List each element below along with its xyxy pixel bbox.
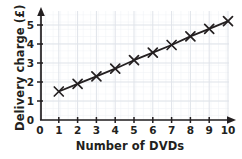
x-axis-title: Number of DVDs bbox=[55, 139, 205, 153]
x-tick-label-4: 4 bbox=[107, 124, 123, 136]
x-tick-label-2: 2 bbox=[70, 124, 86, 136]
x-tick-label-5: 5 bbox=[126, 124, 142, 136]
x-tick-label-8: 8 bbox=[182, 124, 198, 136]
y-tick-label-5: 5 bbox=[20, 19, 34, 31]
y-tick-label-3: 3 bbox=[20, 57, 34, 69]
x-tick-label-1: 1 bbox=[51, 124, 67, 136]
chart-figure: Delivery charge (£) Number of DVDs 0 1 2… bbox=[0, 0, 242, 159]
y-tick-label-1: 1 bbox=[20, 95, 34, 107]
x-tick-label-10: 10 bbox=[220, 124, 236, 136]
x-tick-label-7: 7 bbox=[164, 124, 180, 136]
x-tick-label-0: 0 bbox=[32, 124, 48, 136]
x-tick-label-9: 9 bbox=[201, 124, 217, 136]
y-tick-label-2: 2 bbox=[20, 76, 34, 88]
x-tick-label-3: 3 bbox=[88, 124, 104, 136]
y-tick-label-4: 4 bbox=[20, 38, 34, 50]
x-tick-label-6: 6 bbox=[145, 124, 161, 136]
